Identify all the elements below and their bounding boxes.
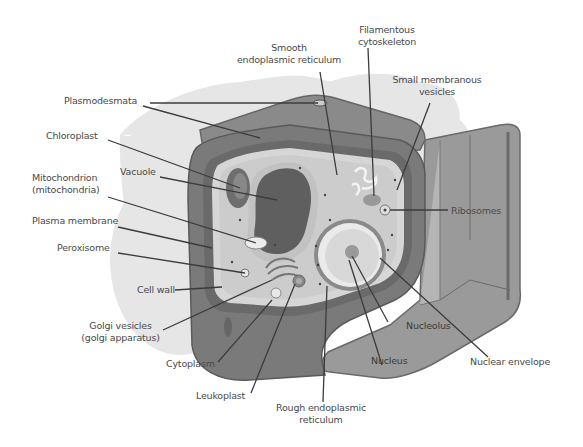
label-filamentous-cytoskeleton: Filamentous cytoskeleton [352,24,422,48]
label-rough-er: Rough endoplasmic reticulum [266,402,376,426]
label-filamentous-line2: cytoskeleton [352,36,422,48]
label-mitochondrion: Mitochondrion (mitochondria) [32,172,100,196]
label-cell-wall: Cell wall [137,284,175,296]
label-nucleus: Nucleus [371,355,407,367]
label-peroxisome: Peroxisome [57,242,110,254]
label-small-vesicles-line2: vesicles [387,86,487,98]
label-ribosomes: Ribosomes [451,205,501,217]
label-filamentous-line1: Filamentous [352,24,422,36]
label-plasma-membrane: Plasma membrane [32,215,118,227]
label-mitochondrion-line1: Mitochondrion [32,172,100,184]
label-plasmodesmata: Plasmodesmata [64,95,137,107]
label-smooth-er-line2: endoplasmic reticulum [224,54,354,66]
label-cytoplasm: Cytoplasm [166,358,215,370]
label-smooth-er: Smooth endoplasmic reticulum [224,42,354,66]
label-nucleolus: Nucleolus [406,320,450,332]
label-golgi: Golgi vesicles (golgi apparatus) [78,320,163,344]
label-chloroplast: Chloroplast [46,130,98,142]
label-mitochondrion-line2: (mitochondria) [32,184,100,196]
label-nuclear-envelope: Nuclear envelope [470,356,550,368]
label-smooth-er-line1: Smooth [224,42,354,54]
label-leukoplast: Leukoplast [196,390,245,402]
label-vacuole: Vacuole [120,166,156,178]
label-rough-er-line2: reticulum [266,414,376,426]
label-golgi-line1: Golgi vesicles [78,320,163,332]
label-rough-er-line1: Rough endoplasmic [266,402,376,414]
label-golgi-line2: (golgi apparatus) [78,332,163,344]
label-small-vesicles: Small membranous vesicles [387,74,487,98]
label-small-vesicles-line1: Small membranous [387,74,487,86]
